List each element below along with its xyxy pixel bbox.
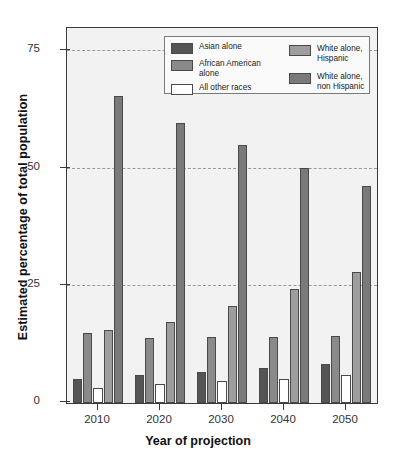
- bar-2020-series-1: [145, 338, 154, 403]
- legend-label-asian-alone: Asian alone: [199, 42, 242, 52]
- legend-label-white-non-hispanic: White alone, non Hispanic: [317, 72, 364, 91]
- y-tick-label: 75: [6, 42, 40, 54]
- y-tick-mark: [60, 284, 70, 285]
- y-tick-label: 0: [6, 394, 40, 406]
- legend-item-asian-alone: Asian alone: [171, 42, 283, 54]
- y-tick-label: 25: [6, 277, 40, 289]
- bar-2050-series-1: [331, 336, 340, 403]
- bar-2050-series-2: [341, 375, 350, 403]
- x-axis-title: Year of projection: [0, 434, 396, 448]
- x-tick-label: 2010: [69, 413, 125, 425]
- bar-2050-series-3: [352, 272, 361, 403]
- bar-2020-series-3: [166, 322, 175, 403]
- x-tick-label: 2030: [193, 413, 249, 425]
- legend-column-right: White alone, Hispanic White alone, non H…: [283, 37, 383, 93]
- bar-2030-series-2: [217, 381, 226, 403]
- bar-2010-series-4: [114, 96, 123, 403]
- legend-swatch-african-american-alone: [171, 60, 193, 71]
- legend-swatch-white-non-hispanic: [289, 73, 311, 84]
- legend-swatch-asian-alone: [171, 43, 193, 54]
- x-tick-mark: [345, 404, 346, 410]
- y-tick-mark: [60, 167, 70, 168]
- x-tick-mark: [283, 404, 284, 410]
- legend-item-african-american-alone: African American alone: [171, 59, 283, 78]
- x-tick-mark: [97, 404, 98, 410]
- x-tick-mark: [221, 404, 222, 410]
- bar-2040-series-1: [269, 337, 278, 403]
- legend-item-all-other-races: All other races: [171, 83, 283, 95]
- bar-2020-series-4: [176, 123, 185, 403]
- x-tick-label: 2050: [317, 413, 373, 425]
- bar-group-2010: [73, 28, 123, 403]
- bar-2010-series-1: [83, 333, 92, 403]
- bar-2010-series-2: [93, 388, 102, 403]
- legend-swatch-white-hispanic: [289, 45, 311, 56]
- y-tick-mark: [60, 49, 70, 50]
- bar-2040-series-4: [300, 168, 309, 403]
- legend-item-white-hispanic: White alone, Hispanic: [289, 44, 383, 63]
- bar-2020-series-2: [155, 384, 164, 403]
- legend-label-all-other-races: All other races: [199, 83, 251, 93]
- legend-item-white-non-hispanic: White alone, non Hispanic: [289, 72, 383, 91]
- legend-column-left: Asian alone African American alone All o…: [165, 37, 283, 93]
- bar-2040-series-0: [259, 368, 268, 403]
- bar-2030-series-4: [238, 145, 247, 403]
- bar-2030-series-3: [228, 306, 237, 403]
- y-axis-title: Estimated percentage of total population: [16, 52, 30, 382]
- x-tick-label: 2040: [255, 413, 311, 425]
- legend-swatch-all-other-races: [171, 84, 193, 95]
- bar-2020-series-0: [135, 375, 144, 403]
- y-tick-mark: [60, 401, 70, 402]
- bar-2040-series-2: [279, 379, 288, 403]
- bar-2030-series-0: [197, 372, 206, 403]
- x-tick-label: 2020: [131, 413, 187, 425]
- bar-2030-series-1: [207, 337, 216, 403]
- legend-label-african-american-alone: African American alone: [199, 59, 283, 78]
- legend-label-white-hispanic: White alone, Hispanic: [317, 44, 363, 63]
- bar-2050-series-0: [321, 364, 330, 403]
- x-tick-mark: [159, 404, 160, 410]
- bar-2010-series-3: [104, 330, 113, 403]
- bar-2050-series-4: [362, 186, 371, 403]
- chart-legend: Asian alone African American alone All o…: [164, 36, 370, 94]
- bar-2010-series-0: [73, 379, 82, 403]
- y-tick-label: 50: [6, 160, 40, 172]
- bar-2040-series-3: [290, 289, 299, 403]
